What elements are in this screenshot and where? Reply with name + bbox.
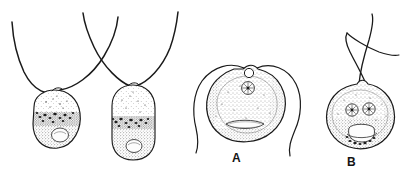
cell-B-nucleus-right bbox=[363, 103, 375, 115]
flagellate-illustration bbox=[0, 0, 405, 181]
cell-A-vacuole bbox=[226, 120, 264, 128]
cell-A-blepharoplast bbox=[244, 68, 253, 77]
figure-panel: A B bbox=[0, 0, 405, 181]
panel-label-B: B bbox=[347, 156, 356, 168]
cell-B-nucleus-left bbox=[346, 104, 358, 116]
cell-2-vacuole bbox=[126, 140, 142, 153]
cell-B-vacuole bbox=[349, 124, 375, 142]
cell-A-nucleus bbox=[242, 82, 255, 95]
panel-label-A: A bbox=[232, 152, 241, 164]
cell-1-vacuole bbox=[52, 128, 69, 142]
